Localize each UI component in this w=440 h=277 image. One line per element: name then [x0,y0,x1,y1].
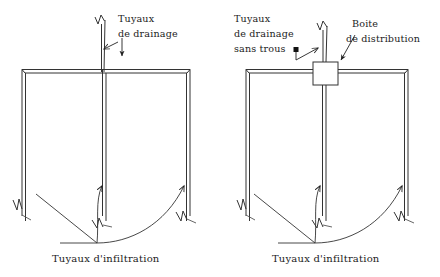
pipe-break-symbol-r-lateral-2 [312,218,323,228]
left-infiltration-curve-2 [97,186,184,243]
left-drain-leader-arrow-1 [104,42,118,49]
right-diagram-group: Tuyaux de drainage sans trous Boite de d… [234,13,420,264]
drainage-field-diagram: Tuyaux de drainage Tuyaux d'infiltration [0,0,440,277]
right-lateral-pipe-1 [246,70,250,222]
right-drain-label-line1: Tuyaux [234,13,271,24]
left-feed-pipe [102,20,106,72]
left-caption: Tuyaux d'infiltration [52,253,160,264]
pipe-break-symbol-top-left [95,15,105,24]
left-drain-label-line2: de drainage [118,28,178,39]
pipe-break-symbol-lateral-3 [176,211,187,221]
right-infiltration-leader-3 [254,194,315,243]
distribution-box [313,62,338,85]
right-drain-leader-dot [294,47,299,52]
right-drain-leader-arrow [296,48,318,60]
left-header-manifold [22,70,190,74]
right-infiltration-curve-1 [315,186,320,243]
box-label-line2: de distribution [346,33,420,44]
pipe-break-symbol-r-lateral-3 [394,211,405,221]
right-infiltration-curve-2 [315,186,402,243]
left-lateral-pipe-2 [103,70,107,222]
right-lateral-pipe-2 [323,85,327,221]
right-drain-label-line2: de drainage [234,28,294,39]
left-drain-label-line1: Tuyaux [118,13,155,24]
left-lateral-pipe-1 [22,70,26,222]
figure-root: Tuyaux de drainage Tuyaux d'infiltration [0,0,440,277]
right-caption: Tuyaux d'infiltration [272,253,380,264]
pipe-break-symbol-top-right [317,21,327,30]
pipe-break-symbol-lateral-1 [13,199,22,210]
left-lateral-pipe-3 [187,70,191,222]
box-label-line1: Boite [352,18,378,29]
right-drain-label-line3: sans trous [234,43,286,54]
right-feed-pipe [323,26,327,62]
left-infiltration-leader-3 [36,194,97,243]
left-infiltration-curve-1 [97,186,102,243]
right-lateral-pipe-3 [405,70,409,222]
left-diagram-group: Tuyaux de drainage Tuyaux d'infiltration [13,13,196,264]
pipe-break-symbol-r-lateral-1 [237,199,246,210]
